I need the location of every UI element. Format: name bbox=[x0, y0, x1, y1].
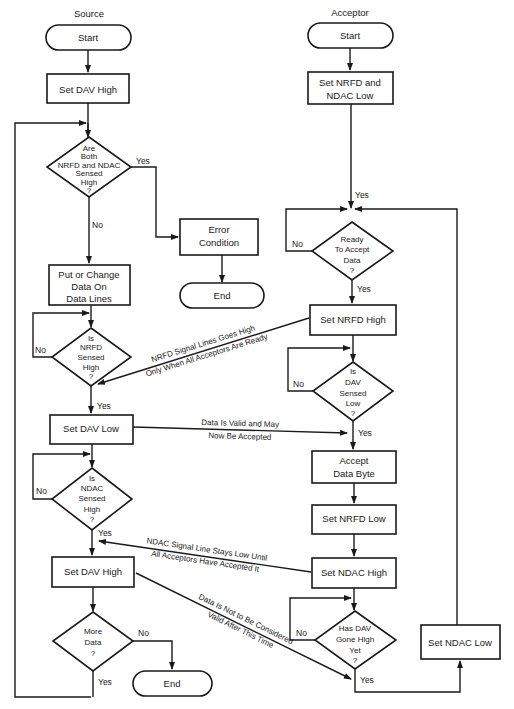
edge-label-no: No bbox=[296, 628, 307, 638]
source-more-data-decision: More Data ? bbox=[53, 612, 133, 671]
source-put-data-on-lines: Put or Change Data On Data Lines bbox=[49, 265, 130, 305]
svg-text:Sensed: Sensed bbox=[339, 389, 366, 398]
svg-text:?: ? bbox=[350, 266, 355, 275]
svg-text:NDAC: NDAC bbox=[81, 484, 104, 493]
source-set-dav-high-2: Set DAV High bbox=[52, 557, 134, 587]
svg-text:Accept: Accept bbox=[339, 455, 368, 466]
svg-text:Sensed: Sensed bbox=[75, 169, 102, 178]
svg-text:Set NDAC Low: Set NDAC Low bbox=[428, 637, 492, 648]
svg-text:Set NRFD High: Set NRFD High bbox=[320, 314, 385, 325]
svg-text:Start: Start bbox=[340, 30, 360, 41]
svg-text:?: ? bbox=[87, 186, 92, 195]
svg-text:Gone High: Gone High bbox=[336, 635, 374, 644]
acceptor-check-dav-low-decision: Is DAV Sensed Low ? bbox=[313, 362, 393, 421]
svg-text:Data Is Valid and May: Data Is Valid and May bbox=[201, 418, 279, 429]
svg-text:Data Byte: Data Byte bbox=[333, 468, 375, 479]
acceptor-dav-gone-high-decision: Has DAV Gone High Yet ? bbox=[315, 611, 396, 669]
svg-text:Set DAV High: Set DAV High bbox=[59, 84, 117, 95]
edge-label-no: No bbox=[36, 486, 47, 496]
svg-text:?: ? bbox=[91, 649, 96, 658]
svg-text:Data On: Data On bbox=[71, 281, 106, 292]
svg-text:End: End bbox=[214, 290, 231, 301]
source-check-ndac-high-decision: Is NDAC Sensed High ? bbox=[52, 468, 132, 530]
svg-text:Condition: Condition bbox=[199, 237, 239, 248]
svg-text:DAV: DAV bbox=[345, 378, 362, 387]
acceptor-accept-data-byte: Accept Data Byte bbox=[312, 451, 396, 483]
svg-text:More: More bbox=[84, 627, 103, 636]
svg-text:Is: Is bbox=[88, 334, 94, 343]
svg-text:Data Lines: Data Lines bbox=[66, 293, 112, 304]
acceptor-set-ndac-high: Set NDAC High bbox=[312, 558, 396, 588]
acceptor-set-nrfd-low: Set NRFD Low bbox=[312, 505, 396, 534]
svg-text:?: ? bbox=[89, 372, 94, 381]
svg-text:Set NRFD and: Set NRFD and bbox=[319, 77, 381, 88]
annotation-ndac-signal: NDAC Signal Line Stays Low Until All Acc… bbox=[144, 536, 268, 574]
source-lane-title: Source bbox=[74, 8, 104, 19]
svg-text:Now Be Accepted: Now Be Accepted bbox=[208, 431, 271, 442]
svg-text:Set DAV High: Set DAV High bbox=[64, 566, 122, 577]
svg-text:Has DAV: Has DAV bbox=[339, 624, 372, 633]
acceptor-set-nrfd-ndac-low: Set NRFD and NDAC Low bbox=[308, 72, 393, 104]
svg-text:High: High bbox=[84, 505, 100, 514]
edge-label-yes: Yes bbox=[357, 284, 371, 294]
source-end-terminal: End bbox=[133, 671, 212, 696]
svg-text:Both: Both bbox=[81, 152, 97, 161]
acceptor-start-terminal: Start bbox=[308, 23, 393, 48]
svg-text:Low: Low bbox=[346, 399, 361, 408]
edge-label-yes: Yes bbox=[136, 156, 150, 166]
acceptor-set-nrfd-high: Set NRFD High bbox=[310, 305, 396, 335]
acceptor-ready-decision: Ready To Accept Data ? bbox=[312, 222, 393, 280]
svg-text:Is: Is bbox=[350, 367, 356, 376]
source-set-dav-low: Set DAV Low bbox=[50, 415, 133, 444]
edge-label-yes: Yes bbox=[97, 401, 111, 411]
svg-text:Put or Change: Put or Change bbox=[58, 269, 119, 280]
svg-text:NRFD: NRFD bbox=[80, 343, 102, 352]
annotation-data-not-valid: Data Is Not to Be Considered Valid After… bbox=[192, 592, 295, 657]
edge-label-yes: Yes bbox=[98, 677, 112, 687]
svg-text:End: End bbox=[164, 678, 181, 689]
edge-label-no: No bbox=[292, 239, 303, 249]
svg-text:NDAC Low: NDAC Low bbox=[327, 90, 374, 101]
source-set-dav-high-1: Set DAV High bbox=[47, 74, 129, 103]
edge-label-yes: Yes bbox=[358, 428, 372, 438]
edge-label-no: No bbox=[293, 379, 304, 389]
svg-text:Data: Data bbox=[85, 638, 102, 647]
svg-text:Yet: Yet bbox=[349, 646, 361, 655]
edge-label-yes: Yes bbox=[98, 528, 112, 538]
svg-text:Sensed: Sensed bbox=[78, 494, 105, 503]
edge-label-yes: Yes bbox=[360, 675, 374, 685]
svg-text:Is: Is bbox=[89, 474, 95, 483]
acceptor-lane-title: Acceptor bbox=[331, 7, 369, 18]
svg-text:Sensed: Sensed bbox=[77, 353, 104, 362]
svg-text:Error: Error bbox=[208, 224, 229, 235]
source-start-terminal: Start bbox=[46, 25, 131, 50]
edge-label-no: No bbox=[92, 220, 103, 230]
edge-label-no: No bbox=[35, 345, 46, 355]
svg-text:?: ? bbox=[90, 515, 95, 524]
svg-text:High: High bbox=[83, 363, 99, 372]
edge-label-no: No bbox=[138, 628, 149, 638]
svg-text:?: ? bbox=[353, 656, 358, 665]
svg-text:Ready: Ready bbox=[340, 235, 363, 244]
handshake-flowchart: Source Start Set DAV High Are Both NRFD … bbox=[0, 0, 514, 709]
source-check-both-high-decision: Are Both NRFD and NDAC Sensed High ? bbox=[47, 137, 131, 197]
svg-text:To Accept: To Accept bbox=[335, 245, 370, 254]
svg-text:Set NDAC High: Set NDAC High bbox=[321, 567, 387, 578]
svg-text:Start: Start bbox=[78, 32, 98, 43]
source-error-condition: Error Condition bbox=[180, 219, 258, 255]
svg-text:Set DAV Low: Set DAV Low bbox=[63, 423, 119, 434]
source-error-end-terminal: End bbox=[180, 283, 264, 308]
acceptor-set-ndac-low: Set NDAC Low bbox=[421, 625, 500, 659]
svg-text:Data: Data bbox=[344, 256, 361, 265]
annotation-nrfd-signal: NRFD Signal Lines Goes High Only When Al… bbox=[141, 321, 269, 379]
svg-text:?: ? bbox=[351, 409, 356, 418]
edge-label-yes: Yes bbox=[355, 190, 369, 200]
svg-text:Set NRFD Low: Set NRFD Low bbox=[322, 513, 385, 524]
